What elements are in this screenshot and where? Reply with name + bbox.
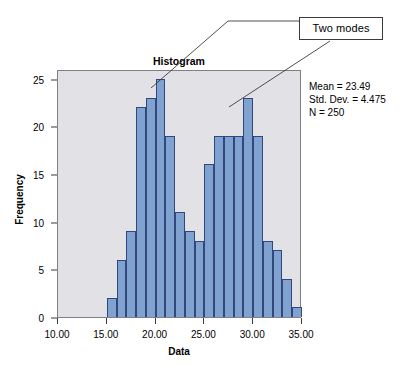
y-tick-label: 5 xyxy=(38,265,44,276)
histogram-bar xyxy=(273,250,283,317)
histogram-bar xyxy=(214,136,224,317)
y-tick-mark xyxy=(51,222,57,223)
x-tick-mark xyxy=(106,318,107,324)
x-axis-title: Data xyxy=(57,346,301,357)
y-tick-mark xyxy=(51,79,57,80)
y-tick-label: 25 xyxy=(33,74,44,85)
stat-n: N = 250 xyxy=(309,106,386,119)
x-tick-mark xyxy=(203,318,204,324)
y-tick-label: 15 xyxy=(33,169,44,180)
y-axis: 0510152025 xyxy=(0,70,52,318)
histogram-bars xyxy=(58,71,300,317)
x-tick-mark xyxy=(301,318,302,324)
histogram-bar xyxy=(292,307,302,317)
callout-two-modes: Two modes xyxy=(299,17,383,40)
histogram-bar xyxy=(175,212,185,317)
x-tick-mark xyxy=(57,318,58,324)
histogram-bar xyxy=(126,231,136,317)
y-tick-mark xyxy=(51,174,57,175)
histogram-bar xyxy=(156,79,166,317)
callout-label: Two modes xyxy=(312,23,369,34)
histogram-bar xyxy=(146,98,156,317)
stat-mean: Mean = 23.49 xyxy=(309,80,386,93)
y-tick-mark xyxy=(51,127,57,128)
histogram-bar xyxy=(117,260,127,317)
x-tick-label: 20.00 xyxy=(142,329,167,340)
statistics-block: Mean = 23.49 Std. Dev. = 4.475 N = 250 xyxy=(309,80,386,119)
y-axis-title: Frequency xyxy=(14,145,25,255)
histogram-bar xyxy=(107,298,117,317)
plot-area xyxy=(57,70,301,318)
histogram-bar xyxy=(253,136,263,317)
histogram-bar xyxy=(224,136,234,317)
histogram-bar xyxy=(165,136,175,317)
x-tick-mark xyxy=(155,318,156,324)
histogram-bar xyxy=(234,136,244,317)
x-tick-label: 15.00 xyxy=(93,329,118,340)
histogram-bar xyxy=(195,241,205,317)
x-tick-label: 10.00 xyxy=(44,329,69,340)
histogram-bar xyxy=(263,241,273,317)
stat-std-dev: Std. Dev. = 4.475 xyxy=(309,93,386,106)
x-tick-mark xyxy=(252,318,253,324)
histogram-bar xyxy=(204,164,214,317)
x-tick-label: 25.00 xyxy=(191,329,216,340)
x-axis: 10.0015.0020.0025.0030.0035.00 xyxy=(57,318,301,348)
x-tick-label: 30.00 xyxy=(240,329,265,340)
histogram-bar xyxy=(185,231,195,317)
histogram-bar xyxy=(243,98,253,317)
histogram-bar xyxy=(136,107,146,317)
y-tick-label: 20 xyxy=(33,122,44,133)
y-tick-label: 10 xyxy=(33,217,44,228)
x-tick-label: 35.00 xyxy=(288,329,313,340)
plot-inner xyxy=(58,71,300,317)
chart-title: Histogram xyxy=(57,55,301,67)
histogram-figure: Two modes Histogram 0510152025 Frequency… xyxy=(0,0,412,372)
histogram-bar xyxy=(282,279,292,317)
y-tick-label: 0 xyxy=(38,313,44,324)
y-tick-mark xyxy=(51,270,57,271)
